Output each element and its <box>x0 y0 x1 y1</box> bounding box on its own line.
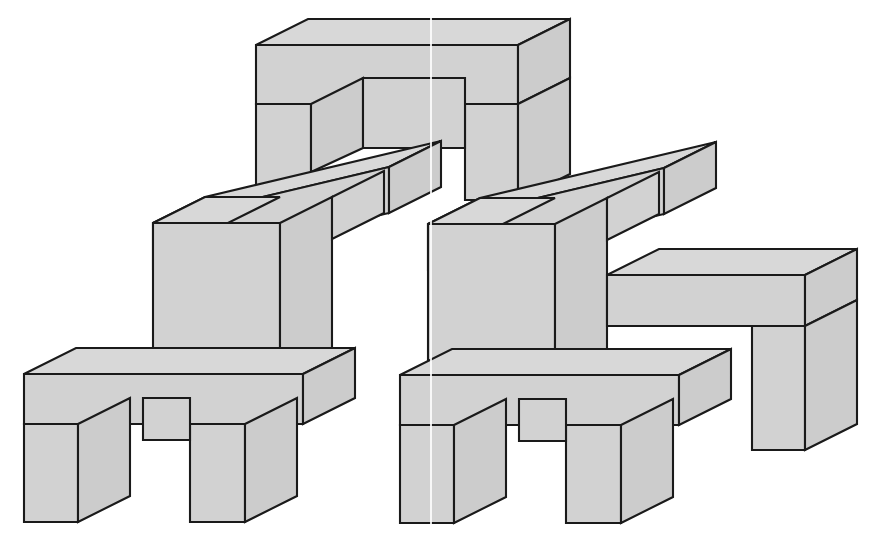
right-base-inner-back-wall <box>519 399 566 441</box>
right-outer-leg-front <box>752 326 805 450</box>
block-figure-canvas <box>0 0 876 546</box>
right-base-leg-inner-front <box>566 425 621 523</box>
right-base-leg-outer-front <box>400 425 454 523</box>
left-base-inner-back-wall <box>143 398 190 440</box>
right-outer-leg-side <box>805 300 857 450</box>
right-outer-shelf-front <box>607 275 805 326</box>
left-base-slab-top <box>24 348 355 374</box>
top-arch-inner-back-wall <box>363 78 465 148</box>
block-faces-group <box>24 19 857 523</box>
left-base-leg-outer-front <box>24 424 78 522</box>
top-arch-right-leg-front <box>465 104 518 200</box>
top-arch-lintel-top <box>256 19 570 45</box>
left-base-leg-inner-front <box>190 424 245 522</box>
right-base-slab-top <box>400 349 731 375</box>
isometric-block-structure <box>0 0 876 546</box>
